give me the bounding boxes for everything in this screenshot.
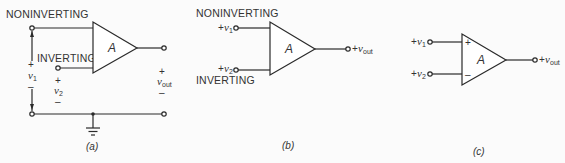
ground-icon (86, 114, 100, 135)
output-terminal (346, 47, 350, 51)
noninverting-label: NONINVERTING (196, 7, 279, 19)
amplifier-gain-label: A (476, 53, 485, 67)
common-left-terminal (30, 112, 34, 116)
arrow-down-icon (30, 104, 34, 110)
v2-terminal (234, 68, 238, 72)
common-right-terminal (162, 112, 166, 116)
caption-b: (b) (282, 140, 294, 151)
v2-subscript: 2 (422, 73, 426, 80)
panel-a: NONINVERTING INVERTING A + v 1 – + v 2 –… (6, 8, 172, 152)
vout-subscript: out (550, 59, 560, 66)
vout-minus: – (159, 87, 165, 98)
amplifier-gain-label: A (107, 41, 116, 55)
v2-terminal (428, 72, 432, 76)
opamp-diagram-figure: NONINVERTING INVERTING A + v 1 – + v 2 –… (0, 0, 565, 163)
v1-subscript: 1 (33, 75, 37, 82)
panel-c: + v 1 + v 2 + – A + v out (c) (411, 34, 560, 157)
caption-a: (a) (86, 141, 98, 152)
v1-subscript: 1 (422, 41, 426, 48)
caption-c: (c) (473, 146, 485, 157)
v1-terminal (428, 40, 432, 44)
v1-terminal (234, 26, 238, 30)
inverting-terminal (56, 66, 60, 70)
plus-input-mark: + (465, 37, 471, 48)
amplifier-gain-label: A (284, 42, 293, 56)
output-terminal (533, 58, 537, 62)
noninverting-label: NONINVERTING (6, 8, 89, 20)
output-terminal (162, 46, 166, 50)
v1-subscript: 1 (229, 27, 233, 34)
v1-minus: – (28, 81, 34, 92)
inverting-label: INVERTING (37, 52, 96, 64)
vout-subscript: out (363, 48, 373, 55)
noninverting-terminal (30, 26, 34, 30)
inverting-label: INVERTING (196, 74, 255, 86)
v2-minus: – (55, 96, 61, 107)
panel-b: NONINVERTING + v 1 + v 2 INVERTING A + v… (196, 7, 373, 151)
arrow-up-icon (30, 31, 34, 37)
minus-input-mark: – (465, 69, 471, 80)
